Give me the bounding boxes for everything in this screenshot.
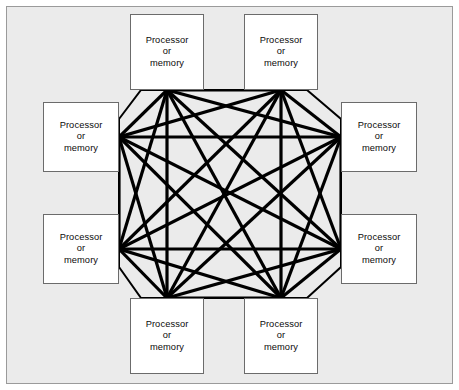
node-label-line3: memory: [264, 58, 298, 69]
node-label-line1: Processor: [146, 35, 189, 46]
node-box-bottom-left[interactable]: Processor or memory: [130, 298, 204, 374]
node-label-line3: memory: [264, 342, 298, 353]
node-box-bottom-right[interactable]: Processor or memory: [244, 298, 318, 374]
node-label-line1: Processor: [60, 232, 103, 243]
node-label-line1: Processor: [260, 319, 303, 330]
node-label-line3: memory: [362, 143, 396, 154]
node-label-line2: or: [375, 243, 383, 254]
node-label-line3: memory: [64, 143, 98, 154]
node-label-line2: or: [163, 46, 171, 57]
node-label-line2: or: [277, 46, 285, 57]
node-label-line1: Processor: [260, 35, 303, 46]
node-box-top-left[interactable]: Processor or memory: [130, 14, 204, 90]
node-label-line1: Processor: [60, 120, 103, 131]
node-box-right-lower[interactable]: Processor or memory: [341, 214, 417, 284]
node-label-line2: or: [77, 131, 85, 142]
node-label-line3: memory: [362, 255, 396, 266]
figure-root: Processor or memory Processor or memory …: [0, 0, 459, 390]
node-label-line1: Processor: [358, 232, 401, 243]
node-label-line3: memory: [150, 58, 184, 69]
node-label-line2: or: [375, 131, 383, 142]
node-label-line2: or: [277, 330, 285, 341]
node-label-line2: or: [163, 330, 171, 341]
node-label-line1: Processor: [358, 120, 401, 131]
node-label-line1: Processor: [146, 319, 189, 330]
node-box-left-upper[interactable]: Processor or memory: [43, 102, 119, 172]
node-box-top-right[interactable]: Processor or memory: [244, 14, 318, 90]
figure-frame: [6, 6, 453, 384]
node-label-line2: or: [77, 243, 85, 254]
node-box-right-upper[interactable]: Processor or memory: [341, 102, 417, 172]
node-box-left-lower[interactable]: Processor or memory: [43, 214, 119, 284]
node-label-line3: memory: [150, 342, 184, 353]
node-label-line3: memory: [64, 255, 98, 266]
